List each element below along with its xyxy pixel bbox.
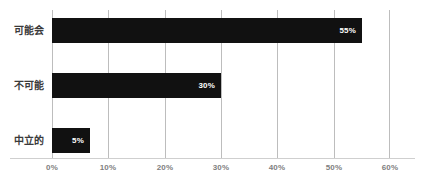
xtick-label-50: 50% <box>314 163 354 172</box>
bar-chart: 55% 30% 5% 可能会 不可能 中立的 0% 10% 20% 30% 40… <box>0 0 425 194</box>
category-label-possible: 可能会 <box>0 18 44 43</box>
plot-area: 55% 30% 5% <box>52 10 390 158</box>
xtick-label-20: 20% <box>145 163 185 172</box>
bar-value-label: 55% <box>339 18 356 43</box>
xtick-label-30: 30% <box>201 163 241 172</box>
bar-row: 5% <box>52 128 390 153</box>
xtick-label-10: 10% <box>88 163 128 172</box>
xtick-label-60: 60% <box>370 163 410 172</box>
xtick-label-0: 0% <box>32 163 72 172</box>
bar-row: 55% <box>52 18 390 43</box>
x-axis-line <box>10 158 415 159</box>
category-label-neutral: 中立的 <box>0 128 44 153</box>
bar-possible[interactable]: 55% <box>52 18 362 43</box>
bar-impossible[interactable]: 30% <box>52 73 221 98</box>
bar-row: 30% <box>52 73 390 98</box>
bar-value-label: 30% <box>198 73 215 98</box>
xtick-label-40: 40% <box>257 163 297 172</box>
bar-neutral[interactable]: 5% <box>52 128 90 153</box>
bar-value-label: 5% <box>72 128 84 153</box>
category-label-impossible: 不可能 <box>0 73 44 98</box>
